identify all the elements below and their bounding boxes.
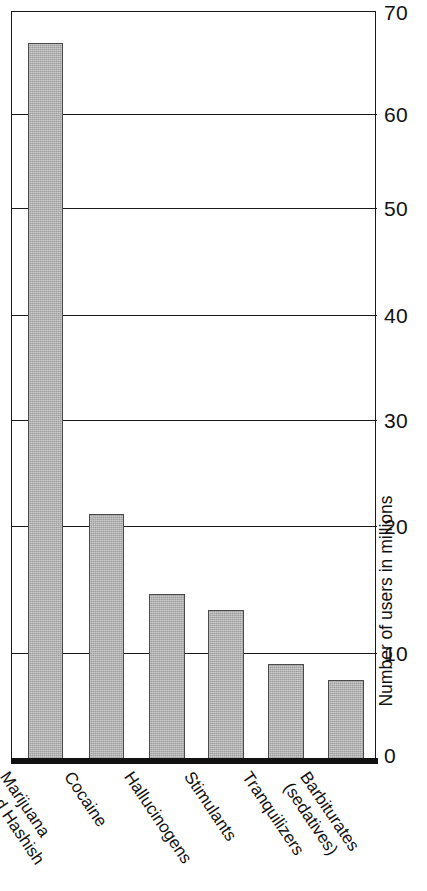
bar-marijuana-and-hashish	[28, 43, 63, 760]
bar-barbiturates-sedatives	[328, 680, 364, 760]
bar-stimulants	[208, 610, 244, 760]
x-axis-labels: Marijuana and Hashish Cocaine Hallucinog…	[0, 760, 427, 891]
bar-cocaine	[89, 514, 124, 760]
y-axis-title: Number of users in millions	[377, 471, 395, 731]
bar-chart: 70 60 50 40 30 20 10 0 Number of users i…	[0, 0, 427, 891]
x-label-marijuana-and-hashish: Marijuana and Hashish	[0, 768, 65, 869]
y-axis-title-wrap: Number of users in millions	[398, 210, 422, 630]
x-label-line1: Stimulants	[180, 768, 240, 844]
bar-tranquilizers	[268, 664, 304, 760]
bar-hallucinogens	[149, 594, 185, 760]
x-label-line1: Cocaine	[60, 768, 111, 830]
y-tick-60: 60	[384, 104, 408, 125]
x-label-stimulants: Stimulants	[180, 768, 240, 844]
x-label-cocaine: Cocaine	[60, 768, 111, 830]
y-tick-70: 70	[384, 2, 408, 23]
